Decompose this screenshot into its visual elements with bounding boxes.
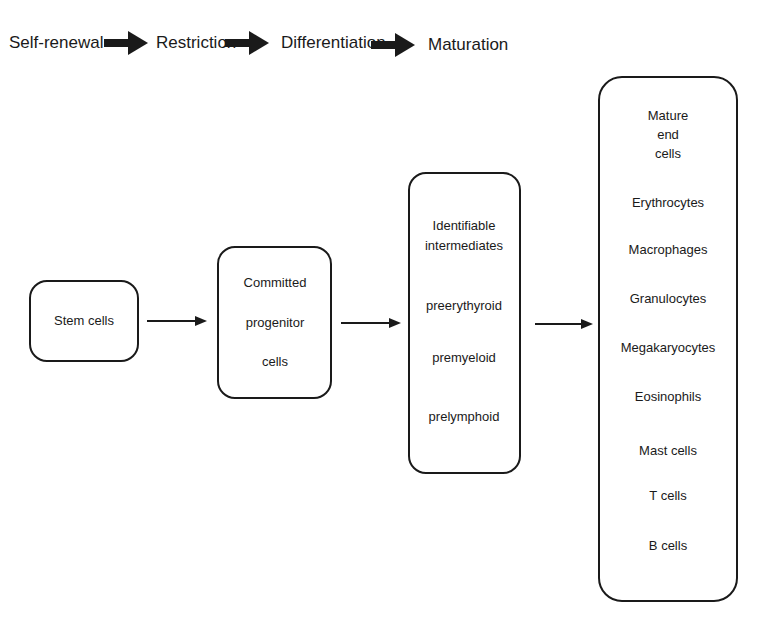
intermediate-item: premyeloid	[432, 350, 496, 366]
intermediate-item: preerythyroid	[426, 298, 502, 314]
progenitor-line-3: cells	[262, 354, 288, 370]
mature-item: Erythrocytes	[632, 195, 704, 211]
progenitor-line-1: Committed	[244, 275, 307, 291]
mature-item: Mast cells	[639, 443, 697, 459]
mature-title-1: Mature	[648, 108, 688, 124]
fat-arrow-icon	[225, 30, 269, 56]
stem-cells-label: Stem cells	[54, 313, 114, 329]
intermediates-title-2: intermediates	[425, 238, 503, 254]
mature-item: T cells	[649, 488, 686, 504]
fat-arrow-icon	[371, 32, 415, 58]
mature-item: Eosinophils	[635, 389, 702, 405]
mature-title-3: cells	[655, 146, 681, 162]
stage-maturation: Maturation	[428, 35, 508, 55]
progenitor-line-2: progenitor	[246, 315, 305, 331]
mature-item: Megakaryocytes	[621, 340, 716, 356]
intermediate-item: prelymphoid	[429, 409, 500, 425]
stage-self-renewal: Self-renewal	[9, 33, 104, 53]
stage-differentiation: Differentiation	[281, 33, 386, 53]
mature-title-2: end	[657, 127, 679, 143]
mature-item: Macrophages	[629, 242, 708, 258]
intermediates-title-1: Identifiable	[433, 218, 496, 234]
mature-item: Granulocytes	[630, 291, 707, 307]
arrow-right-icon	[535, 317, 593, 331]
fat-arrow-icon	[104, 30, 148, 56]
arrow-right-icon	[147, 314, 207, 328]
mature-item: B cells	[649, 538, 687, 554]
arrow-right-icon	[341, 316, 401, 330]
